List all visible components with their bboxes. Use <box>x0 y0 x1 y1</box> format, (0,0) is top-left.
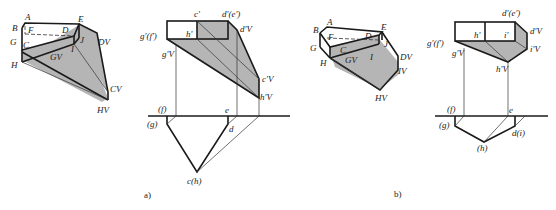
label-b-F: F <box>327 32 334 42</box>
top-ray-d-a <box>228 116 237 124</box>
label-b-GV: GV <box>345 55 358 65</box>
edge-gh-b <box>320 47 330 58</box>
label-b-D: D <box>364 31 372 41</box>
label-E: E <box>77 14 84 24</box>
label-b-f: (f) <box>447 104 456 114</box>
label-H: H <box>10 60 18 70</box>
label-F: F <box>27 25 34 35</box>
label-h-prime: h' <box>186 29 194 39</box>
label-cv-prime: c'V <box>262 74 275 84</box>
label-b-gv-prime: g'V <box>452 48 465 58</box>
label-b-DV: DV <box>399 52 413 62</box>
label-b-h: (h) <box>477 143 488 153</box>
panel-b-orthographic: d'(e') g'(f') h' i' d'V i'V g'V h'V (f) … <box>394 8 548 199</box>
label-b-A: A <box>326 17 333 27</box>
label-b-gf-prime: g'(f') <box>427 38 444 48</box>
label-b-g: (g) <box>439 120 450 130</box>
label-b-B: B <box>313 25 319 35</box>
label-b-de-prime: d'(e') <box>502 8 520 18</box>
label-GV: GV <box>50 52 63 62</box>
label-b-hv-prime: h'V <box>496 64 509 74</box>
label-C: C <box>23 40 30 50</box>
shadow-projection-diagram: A B F G C D E I J H GV DV CV HV c' d'(e <box>0 0 556 210</box>
label-b-dv-prime: d'V <box>530 26 543 36</box>
top-ray-d-b <box>515 116 525 126</box>
top-view-outline-a <box>167 116 228 172</box>
label-b-di: d(i) <box>512 128 525 138</box>
label-b-E: E <box>380 22 387 32</box>
label-G: G <box>10 37 17 47</box>
label-f: (f) <box>158 104 167 114</box>
label-gf-prime: g'(f') <box>140 31 157 41</box>
top-ray-g-b <box>455 116 464 126</box>
label-b-h-prime: h' <box>474 30 482 40</box>
top-ray-h-b <box>484 116 508 142</box>
label-b-IV: IV <box>397 66 408 76</box>
label-A: A <box>24 12 31 22</box>
label-c-prime: c' <box>194 9 201 19</box>
label-b-HV: HV <box>374 93 388 103</box>
label-ch: c(h) <box>187 176 202 186</box>
label-e: e <box>225 105 229 115</box>
label-b-i-prime: i' <box>504 30 510 40</box>
label-b-H: H <box>319 58 327 68</box>
label-hv-prime: h'V <box>260 92 273 102</box>
caption-a: a) <box>144 190 151 200</box>
label-HV: HV <box>96 105 110 115</box>
label-g: (g) <box>147 119 158 129</box>
label-CV: CV <box>110 84 123 94</box>
label-gv-prime: g'V <box>162 49 175 59</box>
label-d: d <box>229 124 234 134</box>
label-b-G: G <box>310 43 317 53</box>
label-dv-prime: d'V <box>240 24 253 34</box>
label-b-C: C <box>340 45 347 55</box>
label-de-prime: d'(e') <box>222 9 240 19</box>
label-b-e: e <box>509 105 513 115</box>
panel-b-axonometric: A B F G C D E J I H GV DV IV HV <box>310 17 413 103</box>
label-B: B <box>12 23 18 33</box>
label-b-iv-prime: i'V <box>530 44 541 54</box>
top-view-outline-b <box>455 116 515 142</box>
box-front-white-a <box>167 21 197 39</box>
panel-a-axonometric: A B F G C D E I J H GV DV CV HV <box>10 12 123 115</box>
label-DV: DV <box>97 37 111 47</box>
caption-b: b) <box>394 189 402 199</box>
panel-a-orthographic: c' d'(e') g'(f') h' d'V g'V c'V h'V (f) … <box>140 9 290 200</box>
label-D: D <box>61 25 69 35</box>
top-ray-g-a <box>167 116 176 124</box>
